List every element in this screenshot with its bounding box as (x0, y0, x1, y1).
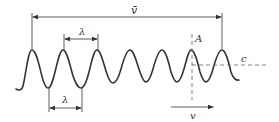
wavelength-bottom-label: λ (61, 94, 68, 105)
point-a-label: A (194, 33, 202, 44)
wavelength-top-label: λ (78, 26, 85, 37)
wavelength-bottom-dimension: λ (49, 88, 82, 112)
mean-velocity-label: v̄ (131, 4, 138, 17)
velocity-label: v (190, 110, 196, 121)
crest-line-label: c (241, 53, 247, 64)
mean-velocity-dimension: v̄ (32, 4, 222, 49)
wave-diagram: v̄ λ λ A c v (0, 0, 279, 122)
wavelength-top-dimension: λ (64, 26, 98, 50)
wave-curve (16, 50, 239, 90)
velocity-arrow: v (171, 107, 213, 121)
wave-diagram-svg: v̄ λ λ A c v (0, 0, 279, 122)
